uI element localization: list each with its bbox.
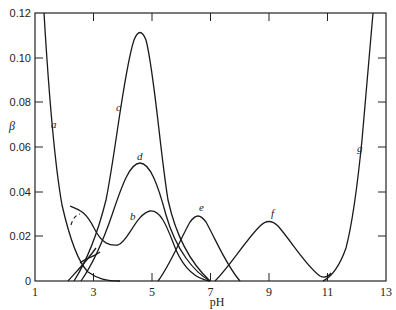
curve-labels: a c d b e f g — [51, 101, 363, 222]
curve-crossing-1 — [80, 252, 100, 263]
curve-crossing-2 — [68, 248, 96, 281]
curve-g — [323, 13, 373, 281]
curve-a — [44, 13, 120, 281]
label-f: f — [271, 207, 276, 219]
x-tick-1: 1 — [32, 285, 38, 299]
y-tick-0.08: 0.08 — [10, 96, 31, 108]
y-tick-0.12: 0.12 — [10, 7, 31, 19]
label-a: a — [51, 118, 57, 130]
x-ticks — [94, 13, 328, 281]
y-tick-0.02: 0.02 — [10, 230, 31, 242]
y-axis-label: β — [8, 119, 15, 133]
buffer-capacity-chart: 0.12 0.10 0.08 0.06 0.04 0.02 0 1 3 5 7 … — [0, 0, 396, 310]
label-g: g — [357, 142, 363, 154]
y-tick-0.10: 0.10 — [10, 52, 31, 64]
y-tick-0: 0 — [25, 275, 31, 287]
curve-b — [70, 206, 210, 281]
label-e: e — [199, 201, 204, 213]
label-d: d — [137, 150, 143, 162]
x-axis-label: pH — [210, 295, 225, 309]
label-b: b — [130, 210, 136, 222]
curve-b-dashed-extension — [71, 214, 80, 225]
curve-e — [158, 216, 240, 281]
plot-frame — [35, 13, 386, 281]
curve-f — [215, 222, 331, 282]
y-ticks — [35, 58, 386, 236]
label-c: c — [116, 101, 121, 113]
x-tick-11: 11 — [322, 285, 334, 299]
x-tick-9: 9 — [266, 285, 272, 299]
y-tick-0.04: 0.04 — [10, 186, 31, 198]
x-tick-3: 3 — [91, 285, 97, 299]
x-tick-5: 5 — [149, 285, 155, 299]
y-tick-0.06: 0.06 — [10, 141, 31, 153]
y-tick-labels: 0.12 0.10 0.08 0.06 0.04 0.02 0 — [10, 7, 31, 287]
x-tick-13: 13 — [380, 285, 392, 299]
